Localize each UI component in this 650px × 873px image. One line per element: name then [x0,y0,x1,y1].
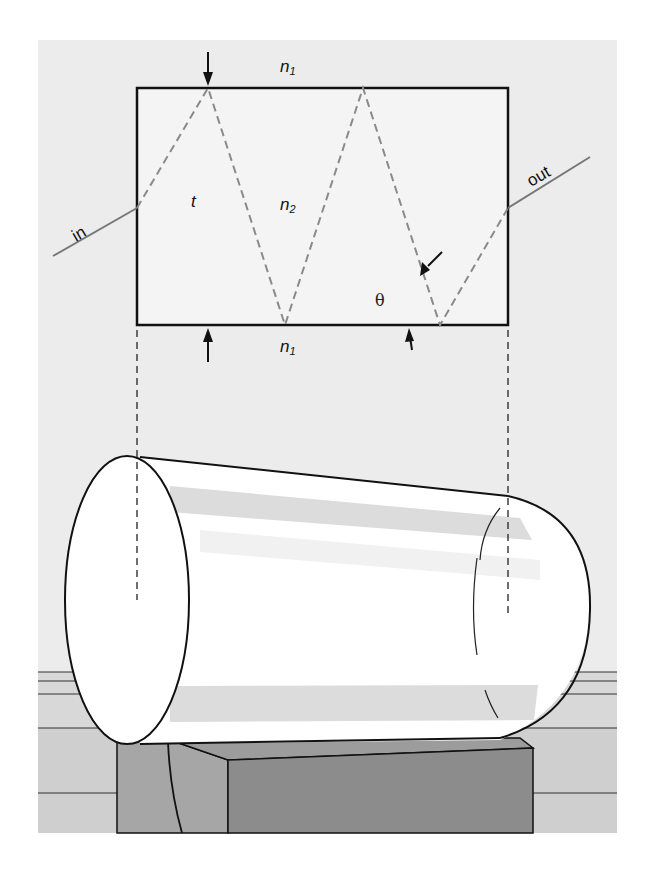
cylinder-end-face [65,456,189,744]
label-angle: θ [375,291,385,310]
support-block [117,738,533,833]
fiber-diagram: n1 n1 n2 t θ in out [0,0,650,873]
glass-cylinder [65,456,590,744]
